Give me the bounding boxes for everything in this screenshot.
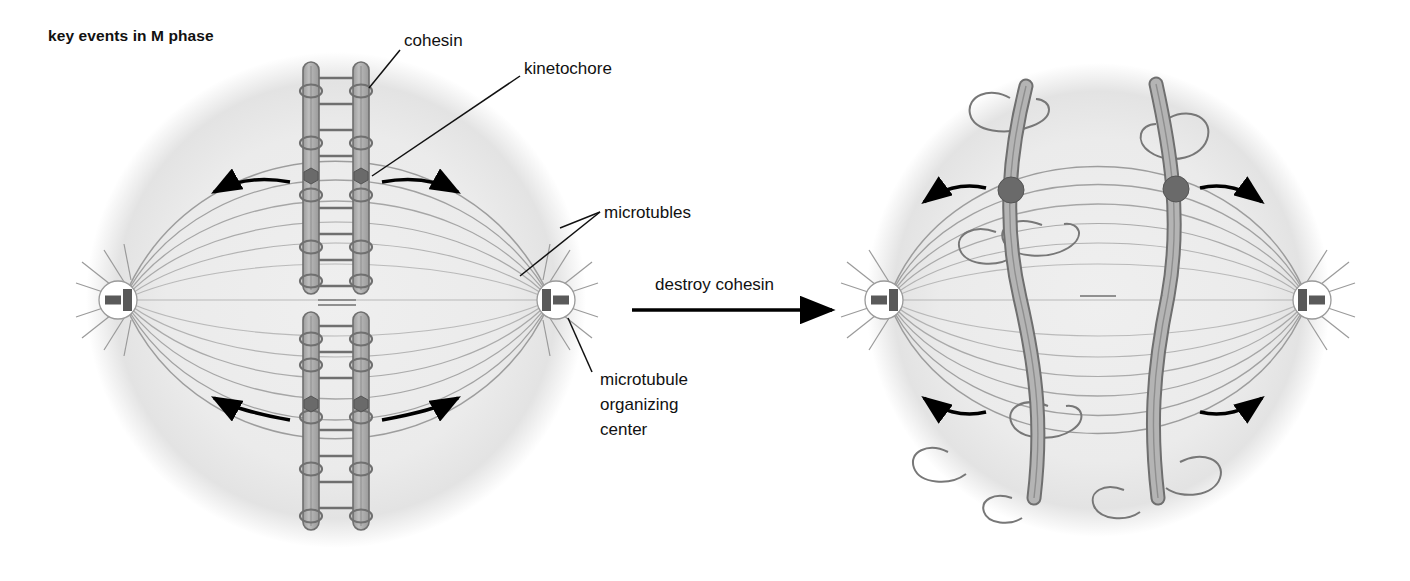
figure-canvas: key events in M phase	[0, 0, 1410, 581]
panel-metaphase	[76, 52, 598, 548]
kinetochore	[354, 396, 368, 412]
transition: destroy cohesin	[632, 275, 832, 310]
mtoc-right	[537, 281, 575, 319]
label-microtubules: microtubles	[604, 203, 691, 222]
kinetochore	[304, 396, 318, 412]
mtoc-left	[99, 281, 137, 319]
kinetochore	[304, 168, 318, 184]
label-mtoc-line2: organizing	[600, 395, 678, 414]
mtoc-left	[865, 281, 903, 319]
kinetochore	[1163, 176, 1189, 202]
label-cohesin: cohesin	[404, 31, 463, 50]
label-kinetochore: kinetochore	[524, 59, 612, 78]
panel-anaphase	[841, 63, 1355, 537]
mtoc-right	[1293, 281, 1331, 319]
kinetochore	[998, 177, 1024, 203]
label-mtoc-line1: microtubule	[600, 370, 688, 389]
label-mtoc-line3: center	[600, 420, 648, 439]
kinetochore	[354, 168, 368, 184]
transition-label: destroy cohesin	[655, 275, 774, 294]
page-title: key events in M phase	[48, 27, 214, 44]
